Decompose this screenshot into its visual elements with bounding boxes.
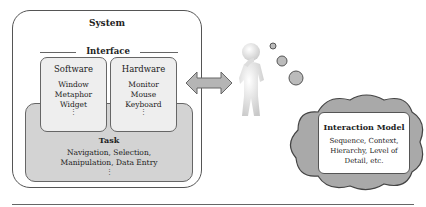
software-item: Metaphor	[41, 90, 106, 100]
interaction-model-title: Interaction Model	[319, 122, 409, 132]
interaction-model-line: Sequence, Context,	[319, 136, 409, 146]
bottom-rule	[12, 204, 414, 205]
task-line-1: Navigation, Selection,	[26, 148, 192, 158]
thought-bubbles-icon	[268, 40, 308, 90]
software-title: Software	[41, 64, 106, 74]
interaction-model-line: Detail, etc.	[319, 156, 409, 166]
software-panel: Software Window Metaphor Widget ⋮	[40, 57, 107, 132]
task-title: Task	[26, 135, 192, 145]
software-item: Window	[41, 80, 106, 90]
task-line-2: Manipulation, Data Entry	[26, 158, 192, 168]
hardware-title: Hardware	[111, 64, 176, 74]
system-title: System	[12, 18, 202, 28]
hardware-item: Mouse	[111, 90, 176, 100]
hardware-item: Monitor	[111, 80, 176, 90]
double-arrow-icon	[184, 70, 234, 96]
task-more-icon: ⋮	[26, 170, 192, 174]
interaction-model-box: Interaction Model Sequence, Context, Hie…	[318, 112, 410, 174]
hardware-more-icon: ⋮	[111, 110, 176, 114]
interaction-model-line: Hierarchy, Level of	[319, 146, 409, 156]
software-more-icon: ⋮	[41, 110, 106, 114]
interface-title: Interface	[76, 46, 140, 56]
hardware-panel: Hardware Monitor Mouse Keyboard ⋮	[110, 57, 177, 132]
